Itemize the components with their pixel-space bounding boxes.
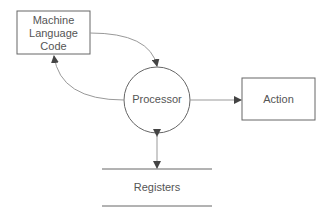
registers-label: Registers	[102, 181, 212, 194]
code-label-line-2: Language	[17, 27, 90, 40]
edge-processor-to-code	[54, 56, 124, 100]
code-label: Machine Language Code	[17, 14, 90, 53]
action-label: Action	[242, 93, 315, 106]
code-label-line-3: Code	[17, 40, 90, 53]
code-label-line-1: Machine	[17, 14, 90, 27]
edge-code-to-processor	[90, 33, 157, 66]
processor-label: Processor	[124, 93, 190, 106]
